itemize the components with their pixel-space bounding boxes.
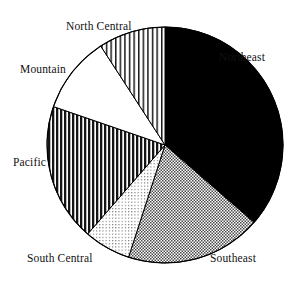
pie-label-northeast: Northeast <box>219 51 265 64</box>
pie-label-southeast: Southeast <box>210 252 256 265</box>
pie-chart: Northeast Southeast South Central Pacifi… <box>0 0 306 286</box>
pie-label-north-central: North Central <box>66 20 132 33</box>
pie-label-south-central: South Central <box>27 252 93 265</box>
pie-label-pacific: Pacific <box>13 156 46 169</box>
pie-label-mountain: Mountain <box>20 63 66 76</box>
pie-chart-canvas <box>0 0 306 286</box>
